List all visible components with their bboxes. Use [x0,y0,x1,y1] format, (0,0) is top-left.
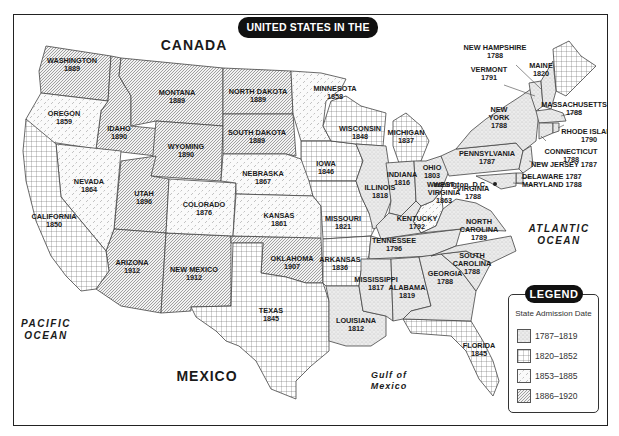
label-wyoming: WYOMING1890 [168,143,204,159]
label-maryland: MARYLAND 1788 [522,181,582,189]
label-new-jersey: NEW JERSEY 1787 [531,161,597,169]
label-new-hampshire: NEW HAMPSHIRE1788 [464,44,527,60]
hatch-swatch-icon [517,389,531,403]
legend: LEGEND State Admission Date 1787–1819 18… [508,294,599,413]
label-washington-dc: Washington, D.C. [427,181,487,189]
label-ohio: OHIO1803 [423,164,442,180]
label-texas: TEXAS1845 [259,307,283,323]
label-new-york: NEW YORK1788 [483,106,515,130]
label-minnesota: MINNESOTA1858 [313,85,356,101]
label-idaho: IDAHO1890 [107,125,131,141]
label-south-dakota: SOUTH DAKOTA1889 [228,129,286,145]
label-florida: FLORIDA1845 [463,342,495,358]
label-maine: MAINE1820 [529,62,553,78]
label-louisiana: LOUISIANA1812 [336,317,376,333]
label-pennsylvania: PENNSYLVANIA1787 [459,150,515,166]
label-nebraska: NEBRASKA1867 [242,170,283,186]
map-title: UNITED STATES IN THE 1920s [238,17,378,38]
label-mexico: MEXICO [176,368,237,384]
label-kansas: KANSAS1861 [264,212,295,228]
legend-title: LEGEND [525,285,583,303]
label-indiana: INDIANA1816 [387,171,417,187]
capital-star-icon [493,182,497,186]
legend-subtitle: State Admission Date [509,309,598,318]
label-utah: UTAH1896 [134,190,154,206]
label-nevada: NEVADA1864 [74,178,104,194]
legend-item-1886-1920: 1886–1920 [517,389,578,403]
dashed-swatch-icon [517,369,531,383]
label-north-carolina: NORTH CAROLINA1789 [457,218,501,242]
label-colorado: COLORADO1876 [183,201,226,217]
label-new-mexico: NEW MEXICO1912 [170,266,218,282]
label-arkansas: ARKANSAS1836 [319,256,360,272]
label-michigan: MICHIGAN1837 [388,129,425,145]
label-arizona: ARIZONA1912 [115,259,148,275]
label-kentucky: KENTUCKY1792 [397,215,438,231]
label-iowa: IOWA1846 [316,160,335,176]
label-massachusetts: MASSACHUSETTS1788 [541,101,607,117]
label-oklahoma: OKLAHOMA1907 [271,255,314,271]
label-rhode-island: RHODE ISLAND1790 [561,128,608,144]
legend-item-1820-1852: 1820–1852 [517,349,578,363]
label-south-carolina: SOUTH CAROLINA1788 [450,252,494,276]
label-missouri: MISSOURI1821 [325,215,361,231]
label-montana: MONTANA1889 [159,89,196,105]
legend-item-1787-1819: 1787–1819 [517,329,578,343]
label-canada: CANADA [161,37,228,53]
label-oregon: OREGON1859 [48,110,80,126]
stipple-swatch-icon [517,329,531,343]
state-washington [39,46,111,101]
label-wisconsin: WISCONSIN1848 [339,125,381,141]
label-alabama: ALABAMA1819 [389,284,426,300]
label-washington: WASHINGTON1889 [47,57,97,73]
label-vermont: VERMONT1791 [471,66,508,82]
label-atlantic-ocean: ATLANTICOCEAN [528,223,589,247]
state-connecticut [539,123,553,139]
label-north-dakota: NORTH DAKOTA1889 [229,88,288,104]
legend-item-1853-1885: 1853–1885 [517,369,578,383]
label-tennessee: TENNESSEE1796 [372,237,416,253]
label-gulf-of-mexico: Gulf ofMexico [371,370,408,392]
label-california: CALIFORNIA1850 [32,213,77,229]
grid-swatch-icon [517,349,531,363]
label-pacific-ocean: PACIFICOCEAN [21,318,71,342]
